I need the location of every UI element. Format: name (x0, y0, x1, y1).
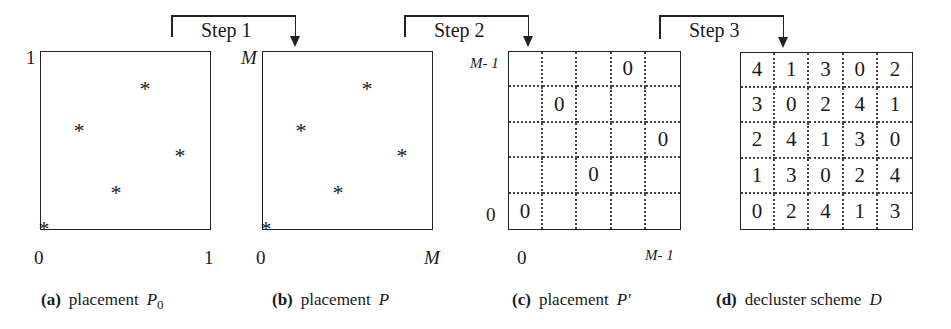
x-axis-left-label: 0 (517, 248, 527, 267)
grid-cell (646, 194, 680, 229)
arrow-down-icon (523, 36, 533, 47)
grid-cell: 0 (878, 123, 912, 158)
grid-cell: 0 (844, 53, 878, 88)
grid-cell (543, 158, 577, 193)
caption-b-symbol: P (379, 290, 389, 309)
arrow-down-icon (290, 36, 300, 47)
grid-cell: 1 (878, 88, 912, 123)
point-marker: * (140, 78, 151, 100)
grid-cell (509, 123, 543, 158)
grid-cell: 1 (741, 159, 775, 194)
point-marker: * (261, 218, 272, 240)
grid-cell (612, 194, 646, 229)
grid-cell: 0 (809, 159, 843, 194)
step-1-left-line (171, 15, 173, 37)
grid-cell (612, 158, 646, 193)
caption-a-subscript: 0 (157, 297, 164, 312)
grid-cell: 1 (809, 123, 843, 158)
y-axis-top-label: 1 (26, 48, 36, 67)
step-2-top-line (404, 15, 529, 17)
grid-cell: 2 (844, 159, 878, 194)
caption-a-text: placement (69, 290, 139, 309)
point-marker: * (296, 120, 307, 142)
grid-cell: 4 (775, 123, 809, 158)
caption-a: (a)placementP0 (41, 291, 164, 311)
step-2-label: Step 2 (434, 20, 485, 40)
grid-cell: 0 (741, 194, 775, 229)
declustering-grid: 4130230241241301302402413 (740, 52, 913, 230)
grid-cell (577, 52, 611, 87)
grid-cell: 4 (878, 159, 912, 194)
grid-cell: 2 (809, 88, 843, 123)
grid-cell: 4 (844, 88, 878, 123)
grid-cell: 0 (509, 194, 543, 229)
grid-cell: 0 (612, 52, 646, 87)
caption-c-text: placement (539, 290, 609, 309)
caption-b-label: (b) (272, 290, 293, 309)
caption-c-symbol: P' (617, 290, 631, 309)
step-2-left-line (404, 15, 406, 37)
caption-b-text: placement (301, 290, 371, 309)
grid-cell (646, 52, 680, 87)
grid-cell (509, 87, 543, 122)
grid-cell: 2 (741, 123, 775, 158)
grid-cell: 3 (741, 88, 775, 123)
point-marker: * (74, 120, 85, 142)
x-axis-left-label: 0 (34, 248, 44, 267)
y-axis-bottom-label: 0 (486, 205, 496, 224)
grid-cell (509, 158, 543, 193)
grid-cell: 0 (775, 88, 809, 123)
point-marker: * (175, 145, 186, 167)
grid-cell (646, 158, 680, 193)
point-marker: * (39, 218, 50, 240)
point-marker: * (362, 78, 373, 100)
caption-a-label: (a) (41, 290, 61, 309)
x-axis-right-label-text: M- 1 (645, 247, 674, 263)
grid-cell (646, 87, 680, 122)
grid-cell: 2 (775, 194, 809, 229)
grid-cell: 1 (775, 53, 809, 88)
caption-c-label: (c) (512, 290, 531, 309)
point-marker: * (397, 145, 408, 167)
step-1-label: Step 1 (201, 20, 252, 40)
caption-a-symbol: P (147, 290, 157, 309)
point-marker: * (111, 182, 122, 204)
placement-square: * * * * * (262, 51, 433, 230)
grid-cell (509, 52, 543, 87)
y-axis-top-label: M- 1 (470, 56, 499, 71)
grid-cell: 1 (844, 194, 878, 229)
y-axis-top-label-text: M- 1 (470, 55, 499, 71)
step-3-label: Step 3 (689, 20, 740, 40)
caption-d-label: (d) (716, 290, 737, 309)
grid-cell (577, 194, 611, 229)
arrow-down-icon (778, 37, 788, 48)
grid-cell: 3 (844, 123, 878, 158)
grid-cell: 4 (741, 53, 775, 88)
grid-cell: 4 (809, 194, 843, 229)
grid-cell (612, 87, 646, 122)
caption-c: (c)placementP' (512, 291, 631, 308)
grid-cell: 2 (878, 53, 912, 88)
grid-cell (543, 194, 577, 229)
x-axis-right-label: 1 (204, 248, 214, 267)
placement-square: * * * * * (40, 51, 211, 230)
grid-cell (543, 123, 577, 158)
point-marker: * (333, 182, 344, 204)
caption-d: (d)decluster schemeD (716, 291, 882, 308)
y-axis-top-label: M (241, 48, 257, 67)
grid-cell (577, 87, 611, 122)
x-axis-left-label: 0 (256, 248, 266, 267)
caption-d-symbol: D (869, 290, 881, 309)
grid-cell (577, 123, 611, 158)
placement-grid: 00000 (508, 51, 681, 230)
step-3-top-line (659, 15, 784, 17)
x-axis-right-label: M (424, 248, 440, 267)
grid-cell: 3 (775, 159, 809, 194)
grid-cell: 0 (543, 87, 577, 122)
caption-b: (b)placementP (272, 291, 389, 308)
step-3-right-line (783, 15, 785, 39)
caption-d-text: decluster scheme (745, 290, 862, 309)
grid-cell: 3 (878, 194, 912, 229)
x-axis-right-label: M- 1 (645, 248, 674, 263)
step-1-top-line (171, 15, 296, 17)
